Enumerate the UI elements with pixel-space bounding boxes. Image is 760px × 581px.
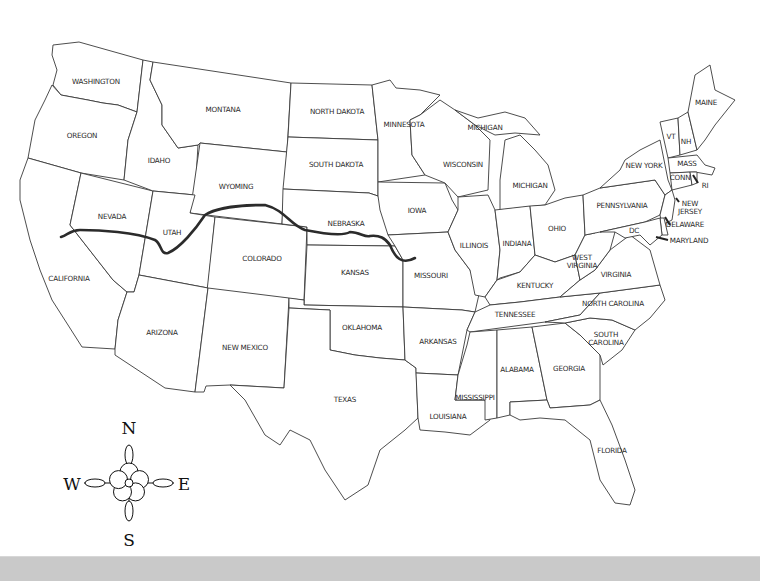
label-ohio: OHIO [548,225,566,233]
label-alabama: ALABAMA [500,366,534,374]
state-michigan-lower[interactable] [500,135,555,210]
label-oregon: OREGON [67,132,98,140]
label-nevada: NEVADA [98,213,126,221]
label-idaho: IDAHO [148,157,171,165]
label-dc: DC [629,227,639,235]
label-minnesota: MINNESOTA [384,121,425,129]
state-new-mexico[interactable] [195,288,289,392]
label-iowa: IOWA [408,207,427,215]
label-illinois: ILLINOIS [460,242,488,250]
label-michigan-upper: MICHIGAN [467,124,502,132]
label-south-dakota: SOUTH DAKOTA [309,161,363,169]
compass-west-label: W [63,474,80,494]
label-delaware: DELAWARE [666,221,704,229]
label-montana: MONTANA [206,106,241,114]
label-wisconsin: WISCONSIN [443,161,483,169]
label-michigan-lower: MICHIGAN [512,182,547,190]
label-new-york: NEW YORK [625,162,662,170]
label-arizona: ARIZONA [146,329,178,337]
label-colorado: COLORADO [242,255,281,263]
compass-rose [84,445,174,521]
label-maryland: MARYLAND [670,237,708,245]
label-louisiana: LOUISIANA [430,413,467,421]
label-north-dakota: NORTH DAKOTA [310,108,364,116]
label-vermont: VT [667,133,676,141]
label-kentucky: KENTUCKY [517,282,554,290]
label-indiana: INDIANA [503,240,532,248]
label-connecticut: CONN [670,174,691,182]
label-kansas: KANSAS [341,269,369,277]
us-map: WASHINGTON OREGON CALIFORNIA NEVADA IDAH… [0,0,760,560]
compass-east-label: E [178,474,190,494]
label-north-carolina: NORTH CAROLINA [582,300,644,308]
label-south-carolina: SOUTH CAROLINA [586,331,626,347]
label-texas: TEXAS [334,396,356,404]
label-west-virginia: WEST VIRGINIA [565,254,599,270]
label-washington: WASHINGTON [72,78,120,86]
label-california: CALIFORNIA [48,275,89,283]
label-rhode-island: RI [702,182,709,190]
label-new-jersey: NEW JERSEY [675,200,705,216]
label-virginia: VIRGINIA [601,271,632,279]
compass-north-label: N [122,418,137,438]
label-massachusetts: MASS [677,160,696,168]
label-oklahoma: OKLAHOMA [342,324,382,332]
label-wyoming: WYOMING [219,183,254,191]
label-utah: UTAH [163,229,182,237]
label-new-hampshire: NH [681,138,691,146]
label-georgia: GEORGIA [553,365,585,373]
label-maine: MAINE [695,99,717,107]
label-missouri: MISSOURI [414,272,448,280]
label-pennsylvania: PENNSYLVANIA [596,202,647,210]
label-tennessee: TENNESSEE [495,311,536,319]
label-new-mexico: NEW MEXICO [222,344,268,352]
label-arkansas: ARKANSAS [419,338,456,346]
label-mississippi: MISSISSIPPI [455,394,494,402]
bottom-strip [0,556,760,581]
state-maine[interactable] [688,65,735,150]
label-nebraska: NEBRASKA [328,220,365,228]
label-florida: FLORIDA [597,447,627,455]
compass-south-label: S [123,530,135,550]
